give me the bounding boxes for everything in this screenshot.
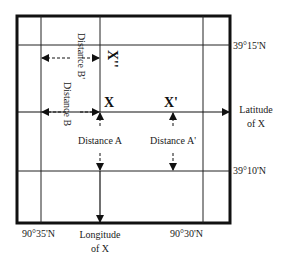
- longitude-label-line1: Longitude: [72, 229, 128, 240]
- latitude-of-x-label: Latitude of X: [232, 104, 280, 129]
- distance-a-label: Distance A: [72, 135, 128, 146]
- latitude-label-line2: of X: [232, 118, 280, 129]
- distance-b-prime-label: Distance B': [76, 33, 87, 79]
- lon-label-left: 90°35'N: [22, 228, 55, 239]
- latitude-label-line1: Latitude: [232, 104, 280, 115]
- longitude-label-line2: of X: [72, 243, 128, 254]
- point-x-double-prime-label: X'': [105, 50, 119, 68]
- point-x-prime-label: X': [164, 96, 178, 110]
- point-x-label: X: [104, 96, 114, 110]
- lon-label-right: 90°30'N: [170, 228, 203, 239]
- lat-label-bottom: 39°10'N: [233, 165, 266, 176]
- map-frame: [17, 16, 230, 223]
- distance-b-label: Distance B: [62, 82, 73, 126]
- coordinate-diagram: X X' X'' Distance A Distance A' Distance…: [0, 0, 284, 267]
- distance-a-prime-label: Distance A': [141, 135, 205, 146]
- lat-label-top: 39°15'N: [233, 40, 266, 51]
- longitude-of-x-label: Longitude of X: [72, 229, 128, 254]
